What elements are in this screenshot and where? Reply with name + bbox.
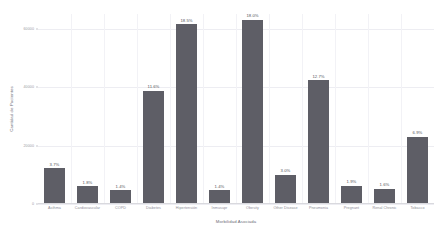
bar-slot: 6.9% [401, 14, 434, 204]
bar-value-label: 6.9% [413, 130, 423, 135]
x-axis-tick-labels: AsthmaCardiovascularCOPDDiabetesHiperten… [38, 206, 434, 210]
bar-slot: 3.0% [269, 14, 302, 204]
x-axis-tick-label: Inmusupr [203, 206, 236, 210]
x-axis-title: Morbilidad Asociada [38, 219, 434, 224]
bar[interactable]: 12.7% [308, 80, 328, 204]
bar-value-label: 18.0% [246, 13, 258, 18]
bar-slot: 3.7% [38, 14, 71, 204]
x-axis-tick-label: Pneumonia [302, 206, 335, 210]
bar-value-label: 1.4% [116, 184, 126, 189]
bar-slot: 1.4% [104, 14, 137, 204]
x-axis-tick-label: Tobacco [401, 206, 434, 210]
x-axis-tick-label: Obesity [236, 206, 269, 210]
bar-series: 3.7%1.8%1.4%11.6%18.5%1.4%18.0%3.0%12.7%… [38, 14, 434, 204]
bar-slot: 11.6% [137, 14, 170, 204]
bar[interactable]: 3.0% [275, 175, 295, 204]
x-axis-tick-label: Renal Chronic [368, 206, 401, 210]
y-axis-tick-label: 20000 [24, 144, 35, 148]
bar[interactable]: 1.4% [209, 190, 229, 204]
bar-slot: 1.4% [203, 14, 236, 204]
y-axis-tick-label: 0 [32, 202, 34, 206]
bar-chart: Cantidad de Pacientes 0200004000060000 3… [0, 0, 446, 239]
bar-value-label: 12.7% [312, 74, 324, 79]
bar-value-label: 1.6% [380, 182, 390, 187]
x-axis-line [38, 203, 434, 204]
bar[interactable]: 3.7% [44, 168, 64, 204]
x-axis-tick-label: Diabetes [137, 206, 170, 210]
bar-value-label: 18.5% [180, 18, 192, 23]
x-axis-tick-label: COPD [104, 206, 137, 210]
bar[interactable]: 18.5% [176, 24, 196, 204]
bar[interactable]: 1.6% [374, 189, 394, 204]
x-axis-tick-label: Cardiovascular [71, 206, 104, 210]
bar-slot: 12.7% [302, 14, 335, 204]
bar-value-label: 11.6% [148, 84, 160, 89]
bar-slot: 1.9% [335, 14, 368, 204]
bar-slot: 1.6% [368, 14, 401, 204]
y-axis-tick-label: 40000 [24, 85, 35, 89]
bar-slot: 1.8% [71, 14, 104, 204]
plot-area: 0200004000060000 3.7%1.8%1.4%11.6%18.5%1… [38, 14, 434, 204]
x-axis-tick-label: Pregnant [335, 206, 368, 210]
x-axis-tick-label: Asthma [38, 206, 71, 210]
bar-slot: 18.0% [236, 14, 269, 204]
x-axis-tick-label: Hipertensión [170, 206, 203, 210]
bar-slot: 18.5% [170, 14, 203, 204]
bar[interactable]: 1.4% [110, 190, 130, 204]
gridline [38, 204, 434, 205]
bar-value-label: 3.7% [50, 162, 60, 167]
bar[interactable]: 11.6% [143, 91, 163, 204]
y-axis-title: Cantidad de Pacientes [9, 14, 19, 204]
bar[interactable]: 6.9% [407, 137, 427, 204]
bar-value-label: 1.9% [347, 179, 357, 184]
bar-value-label: 3.0% [281, 168, 291, 173]
bar[interactable]: 1.8% [77, 186, 97, 204]
y-axis-tick-label: 60000 [24, 27, 35, 31]
bar-value-label: 1.8% [83, 180, 93, 185]
bar[interactable]: 1.9% [341, 186, 361, 204]
bar[interactable]: 18.0% [242, 20, 262, 204]
x-axis-tick-label: Other Disease [269, 206, 302, 210]
bar-value-label: 1.4% [215, 184, 225, 189]
